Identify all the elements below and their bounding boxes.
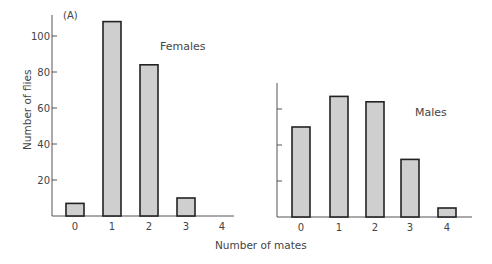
females-bar-0 [66,203,84,216]
females-y-tick-label: 80 [37,67,50,78]
males-x-tick-label: 0 [298,222,304,233]
females-label: Females [160,40,206,53]
females-bar-2 [140,65,158,216]
x-axis-title: Number of mates [215,239,307,251]
males-label: Males [415,106,447,119]
males-x-ticks: 01234 [298,222,450,233]
y-axis-title: Number of flies [21,70,33,150]
panel-label: (A) [63,10,78,21]
females-y-tick-label: 100 [31,31,50,42]
males-y-ticks [277,109,282,181]
females-y-tick-label: 40 [37,139,50,150]
males-bar-3 [401,159,419,217]
females-bar-3 [177,198,195,216]
females-y-tick-label: 20 [37,175,50,186]
females-y-ticks: 20406080100 [31,31,57,186]
males-bar-2 [366,102,384,217]
chart-canvas: 20406080100 01234 (A) Females Number of … [0,0,492,264]
males-bar-1 [330,96,348,217]
females-x-tick-label: 1 [109,221,115,232]
males-bar-4 [438,208,456,217]
females-x-tick-label: 3 [183,221,189,232]
males-panel: 01234 Males [277,83,472,233]
males-x-tick-label: 2 [372,222,378,233]
females-panel: 20406080100 01234 (A) Females Number of … [21,10,234,232]
females-x-ticks: 01234 [72,221,225,232]
females-x-tick-label: 0 [72,221,78,232]
females-y-tick-label: 60 [37,103,50,114]
males-x-tick-label: 4 [444,222,450,233]
females-x-tick-label: 2 [146,221,152,232]
males-x-tick-label: 3 [407,222,413,233]
females-bar-1 [103,22,121,216]
males-bar-0 [292,127,310,217]
males-x-tick-label: 1 [336,222,342,233]
females-x-tick-label: 4 [219,221,225,232]
